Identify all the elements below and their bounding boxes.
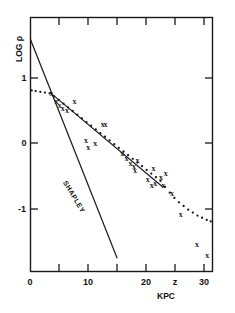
data-point-dot [35,90,37,92]
x-axis-ticks-bottom [59,264,204,272]
data-point-dot [81,117,83,119]
data-point-dot [44,91,46,93]
x-tick-label-20: 20 [141,277,151,287]
data-point-dot [31,89,33,91]
data-point-dot [210,220,212,222]
figure-container: xxxxxxxxxxxxxxxxxxxxxxxxxxxx SHAPLEY LOG… [0,0,235,313]
series-observations: xxxxxxxxxxxxxxxxxxxxxxxxxxxx [49,89,209,259]
data-point-x: x [72,97,76,106]
data-point-dot [85,121,87,123]
data-point-dot [109,139,111,141]
y-tick-label-minus1: -1 [18,204,26,214]
data-point-dot [178,201,180,203]
data-point-x: x [164,169,168,178]
data-point-dot [39,91,41,93]
data-point-dot [187,209,189,211]
series-SHAPLEY [31,40,118,259]
data-point-dot [72,110,74,112]
data-point-dot [155,176,157,178]
y-axis-ticks-right [205,78,213,209]
data-point-x: x [195,240,199,249]
line-SHAPLEY [31,40,118,259]
plot-frame [31,18,213,272]
shapley-label: SHAPLEY [62,179,86,213]
data-point-x: x [93,139,97,148]
x-tick-label-z: z [173,277,178,287]
data-point-dot [104,136,106,138]
data-point-dot [95,128,97,130]
shapley-annotation: SHAPLEY [62,179,86,213]
data-point-x: x [161,181,165,190]
data-point-dot [145,169,147,171]
data-point-x: x [86,143,90,152]
data-point-dot [99,132,101,134]
data-point-x: x [135,156,139,165]
data-point-dot [141,165,143,167]
y-tick-label-0: 0 [21,138,26,148]
data-point-dot [182,205,184,207]
frame-rect [31,18,213,272]
x-tick-label-30: 30 [199,277,209,287]
data-point-dot [206,219,208,221]
data-point-dot [90,125,92,127]
data-point-x: x [49,89,53,98]
data-point-dot [113,143,115,145]
data-series-layer: xxxxxxxxxxxxxxxxxxxxxxxxxxxx [31,40,212,260]
data-point-x: x [179,210,183,219]
data-point-dot [192,211,194,213]
scientific-plot: xxxxxxxxxxxxxxxxxxxxxxxxxxxx SHAPLEY LOG… [0,0,235,313]
data-point-x: x [133,166,137,175]
data-point-x: x [153,179,157,188]
x-tick-label-10: 10 [83,277,93,287]
x-axis-title: KPC [157,291,175,301]
data-point-x: x [205,251,209,260]
y-tick-label-1: 1 [21,73,26,83]
data-point-dot [196,214,198,216]
y-axis-title: LOG ρ [14,36,24,62]
data-point-x: x [170,189,174,198]
y-axis-ticks-left [31,78,39,209]
x-tick-label-0: 0 [27,277,32,287]
data-point-x: x [65,106,69,115]
x-axis-ticks-top [59,18,204,26]
data-point-x: x [104,120,108,129]
data-point-x: x [152,164,156,173]
data-point-dot [201,217,203,219]
data-point-dot [76,114,78,116]
data-point-x: x [159,173,163,182]
